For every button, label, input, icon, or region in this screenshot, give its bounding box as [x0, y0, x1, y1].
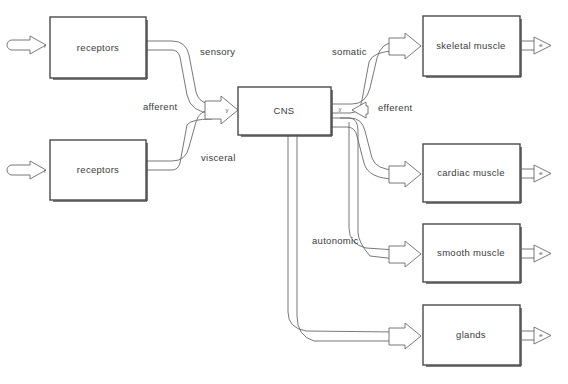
- box-glands[interactable]: glands: [423, 305, 521, 366]
- output-arrow-skeletal: e: [520, 37, 551, 54]
- box-skeletal-muscle[interactable]: skeletal muscle: [423, 16, 521, 77]
- box-label-cardiac-muscle: cardiac muscle: [437, 167, 505, 178]
- output-arrow-smooth: e: [520, 245, 551, 262]
- box-smooth-muscle[interactable]: smooth muscle: [423, 224, 521, 283]
- box-label-glands: glands: [456, 329, 486, 340]
- flow-cns-to-smooth: [349, 122, 421, 267]
- box-label-receptors-bottom: receptors: [77, 164, 119, 175]
- cns-input-mark: y: [226, 107, 229, 113]
- nervous-system-diagram: r r y: [0, 0, 568, 384]
- box-receptors-top[interactable]: receptors: [50, 17, 147, 79]
- edge-label-autonomic: autonomic: [312, 235, 359, 246]
- edge-label-somatic: somatic: [332, 46, 367, 57]
- afferent-merge-arrowhead: y: [205, 96, 238, 124]
- box-label-skeletal-muscle: skeletal muscle: [436, 40, 505, 51]
- edge-label-afferent: afferent: [143, 101, 178, 112]
- box-label-receptors-top: receptors: [77, 42, 119, 53]
- output-arrow-glands: e: [520, 327, 551, 344]
- cns-output-mark: y: [339, 106, 342, 112]
- box-receptors-bottom[interactable]: receptors: [50, 140, 147, 201]
- flow-cns-to-cardiac: [332, 118, 421, 187]
- edge-label-efferent: efferent: [378, 102, 413, 113]
- diagram-canvas: r r y: [0, 0, 568, 384]
- input-arrow-receptors-bottom: r: [7, 161, 46, 179]
- receptor-top-input-mark: r: [44, 43, 46, 49]
- receptor-bottom-input-mark: r: [44, 168, 46, 174]
- input-arrow-receptors-top: r: [7, 36, 46, 54]
- box-cns[interactable]: CNS: [238, 87, 332, 136]
- edge-label-sensory: sensory: [200, 46, 235, 57]
- edge-label-visceral: visceral: [201, 152, 236, 163]
- output-arrow-cardiac: e: [520, 165, 551, 182]
- box-label-smooth-muscle: smooth muscle: [437, 247, 505, 258]
- box-label-cns: CNS: [274, 105, 295, 116]
- box-cardiac-muscle[interactable]: cardiac muscle: [423, 144, 521, 203]
